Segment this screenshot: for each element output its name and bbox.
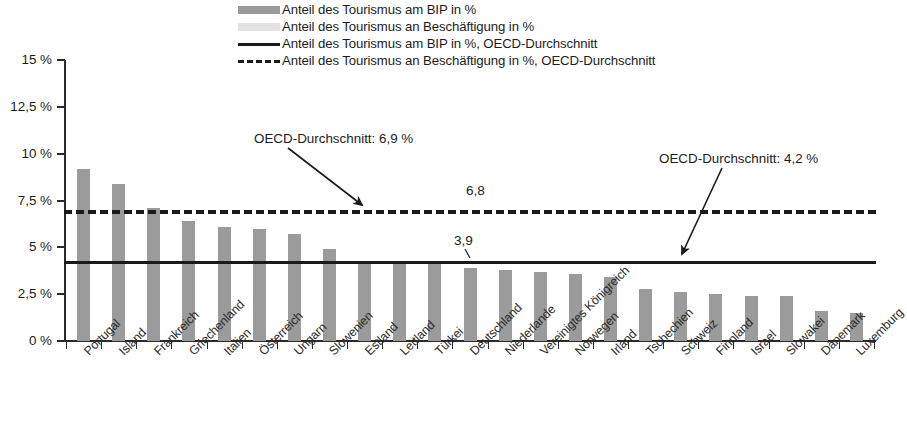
bar-tschechien <box>639 289 652 341</box>
bar--sterreich <box>253 229 266 341</box>
value-label-beschaeftigung-de: 6,8 <box>466 184 485 198</box>
annotation-oecd-average-bip: OECD-Durchschnitt: 4,2 % <box>659 151 818 166</box>
reference-line-beschaeftigung <box>64 210 876 214</box>
y-axis-tick-label: 12,5 % <box>0 100 52 113</box>
annotation-oecd-average-beschaeftigung: OECD-Durchschnitt: 6,9 % <box>254 131 413 146</box>
y-axis-tick-label: 10 % <box>0 147 52 160</box>
y-axis-tick <box>57 153 65 155</box>
y-axis-tick-label: 5 % <box>0 240 52 253</box>
y-axis-tick <box>57 200 65 202</box>
reference-line-bip <box>64 261 876 264</box>
y-axis-tick-label: 15 % <box>0 53 52 66</box>
bar-portugal <box>77 169 90 341</box>
y-axis-tick <box>57 59 65 61</box>
y-axis-tick <box>57 246 65 248</box>
y-axis-tick-label: 2,5 % <box>0 287 52 300</box>
y-axis-tick <box>57 340 65 342</box>
bar-slowakei <box>780 296 793 341</box>
x-axis-tick <box>66 342 67 349</box>
bar-frankreich <box>147 208 160 341</box>
bar-deutschland <box>464 268 477 341</box>
y-axis-tick-label: 7,5 % <box>0 194 52 207</box>
y-axis-tick-label: 0 % <box>0 334 52 347</box>
y-axis-tick <box>57 106 65 108</box>
y-axis-tick <box>57 293 65 295</box>
value-label-bip-de: 3,9 <box>454 234 473 248</box>
